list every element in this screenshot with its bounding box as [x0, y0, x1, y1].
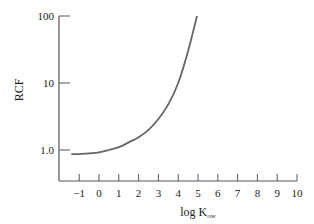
x-tick-label: 8 — [255, 187, 261, 199]
x-axis-label-subscript: ow — [207, 212, 217, 220]
marks — [71, 16, 197, 154]
y-tick-label: 1.0 — [40, 144, 54, 156]
x-tick-label: 10 — [292, 187, 304, 199]
x-tick-label: 6 — [215, 187, 221, 199]
y-tick-label: 10 — [43, 77, 55, 89]
ticks: −10123456789101.010100 — [38, 10, 304, 199]
x-tick-label: 1 — [116, 187, 122, 199]
x-axis-label: log Kow — [180, 205, 217, 220]
x-tick-label: 3 — [156, 187, 162, 199]
rcf-chart: −10123456789101.010100 RCF log Kow — [0, 0, 314, 224]
x-tick-label: −1 — [73, 187, 85, 199]
y-tick-label: 100 — [38, 10, 55, 22]
x-axis-label-main: log K — [180, 205, 207, 219]
x-tick-label: 5 — [195, 187, 201, 199]
rcf-curve — [71, 16, 197, 154]
x-tick-label: 4 — [175, 187, 181, 199]
x-tick-label: 2 — [136, 187, 142, 199]
x-tick-label: 0 — [96, 187, 102, 199]
x-tick-label: 7 — [235, 187, 241, 199]
y-axis-label: RCF — [12, 78, 26, 101]
axes — [59, 16, 297, 181]
x-tick-label: 9 — [274, 187, 280, 199]
